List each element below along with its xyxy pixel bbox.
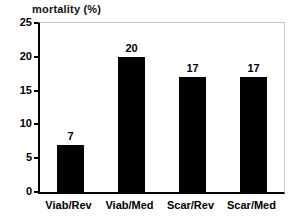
bar (118, 57, 145, 192)
bar-group: 7 (57, 23, 84, 192)
x-axis: Viab/RevViab/MedScar/RevScar/Med (38, 199, 285, 217)
bar-value-label: 7 (67, 131, 73, 142)
bar-group: 17 (240, 23, 267, 192)
bar (240, 77, 267, 192)
y-tick-label: 5 (26, 152, 32, 163)
y-axis: 0510152025 (0, 0, 38, 221)
bar (179, 77, 206, 192)
mortality-bar-chart: mortality (%) 0510152025 7201717 Viab/Re… (0, 0, 296, 221)
bar-group: 20 (118, 23, 145, 192)
bar-value-label: 17 (247, 63, 259, 74)
y-tick-label: 15 (20, 85, 32, 96)
bar (57, 145, 84, 192)
y-tick-label: 20 (20, 51, 32, 62)
y-tick-label: 25 (20, 17, 32, 28)
bar-value-label: 17 (186, 63, 198, 74)
bar-value-label: 20 (125, 43, 137, 54)
y-tick-label: 10 (20, 118, 32, 129)
plot-inner: 7201717 (40, 23, 284, 192)
y-tick-label: 0 (26, 186, 32, 197)
bar-group: 17 (179, 23, 206, 192)
plot-area: 7201717 (38, 22, 285, 194)
x-tick-label: Scar/Med (212, 199, 292, 211)
chart-title: mortality (%) (32, 3, 101, 15)
